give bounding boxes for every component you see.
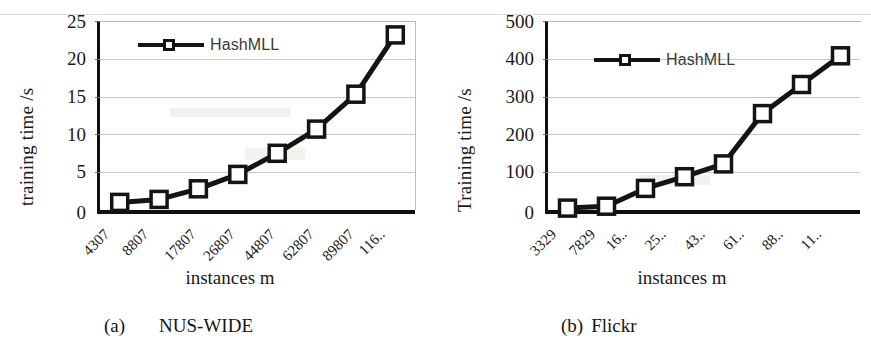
x-tick-label-left-7: 116.. — [356, 226, 389, 259]
figure-panel-flickr: Training time /s — [430, 0, 871, 363]
y-tick-label-left-10: 10 — [48, 125, 86, 144]
y-tick-label-left-5: 5 — [48, 162, 86, 181]
x-tick-label-left-6: 89807 — [319, 226, 358, 265]
panel-caption-b-tag: (b) — [561, 315, 583, 336]
legend-right: HashMLL — [594, 51, 735, 69]
x-tick-label-right-3: 25.. — [642, 226, 670, 254]
plot-container-right: HashMLL — [545, 21, 861, 214]
y-tick-label-right-100: 100 — [488, 162, 534, 181]
panel-caption-a-text: NUS-WIDE — [159, 315, 253, 336]
y-tick-label-right-500: 500 — [488, 12, 534, 31]
x-tick-label-left-0: 4307 — [80, 226, 113, 259]
y-tick-label-left-25: 25 — [48, 12, 86, 31]
y-tick-label-right-0: 0 — [488, 203, 534, 222]
panel-caption-a: (a)NUS-WIDE — [104, 315, 253, 337]
plot-axes-right: HashMLL — [545, 21, 860, 214]
open-square-icon — [163, 39, 175, 51]
panel-caption-a-tag: (a) — [104, 315, 125, 336]
legend-label-right: HashMLL — [666, 51, 735, 69]
plot-container-left: HashMLL — [97, 21, 415, 214]
plot-frame-right-left — [415, 21, 416, 210]
y-axis-title-left: training time /s — [16, 36, 38, 206]
x-tick-label-right-2: 16.. — [603, 226, 631, 254]
figure-panel-nus-wide: training time /s — [0, 0, 440, 363]
x-axis-title-right: instances m — [602, 267, 762, 289]
x-tick-label-right-0: 3329 — [527, 226, 560, 259]
y-tick-label-right-200: 200 — [488, 125, 534, 144]
legend-marker-sample-left — [138, 38, 204, 52]
x-tick-label-left-5: 62807 — [279, 226, 318, 265]
open-square-icon — [619, 54, 631, 66]
panel-caption-b: (b)Flickr — [561, 315, 637, 337]
x-tick-label-left-3: 26807 — [200, 226, 239, 265]
y-tick-label-left-15: 15 — [48, 87, 86, 106]
legend-left: HashMLL — [138, 36, 279, 54]
y-tick-label-right-400: 400 — [488, 49, 534, 68]
legend-marker-sample-right — [594, 53, 660, 67]
legend-label-left: HashMLL — [210, 36, 279, 54]
x-tick-label-right-5: 61.. — [720, 226, 748, 254]
y-tick-label-left-20: 20 — [48, 49, 86, 68]
x-tick-label-left-2: 17807 — [161, 226, 200, 265]
x-tick-label-left-4: 44807 — [240, 226, 279, 265]
x-axis-title-left: instances m — [150, 267, 310, 289]
x-tick-label-right-4: 43.. — [681, 226, 709, 254]
x-tick-label-right-6: 88.. — [759, 226, 787, 254]
plot-axes-left: HashMLL — [97, 21, 415, 214]
y-tick-label-left-0: 0 — [48, 203, 86, 222]
x-tick-label-right-7: 11.. — [797, 226, 825, 254]
y-axis-title-right: Training time /s — [454, 32, 476, 212]
series-line-right — [548, 21, 860, 210]
y-tick-label-right-300: 300 — [488, 87, 534, 106]
panel-caption-b-text: Flickr — [591, 315, 636, 336]
x-tick-label-right-1: 7829 — [566, 226, 599, 259]
x-tick-label-left-1: 8807 — [119, 226, 152, 259]
